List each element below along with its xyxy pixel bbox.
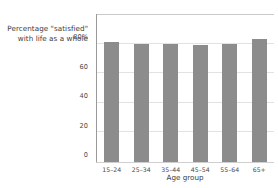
y-axis-tick-label: 20 bbox=[80, 123, 88, 130]
x-axis-tick-label: 55–64 bbox=[220, 167, 239, 173]
x-axis-line bbox=[96, 162, 274, 163]
bar-chart: Percentage "satisfied" with life as a wh… bbox=[0, 0, 278, 188]
x-axis-tick-label: 15–24 bbox=[102, 167, 121, 173]
bar bbox=[252, 39, 267, 162]
x-axis-tick-label: 25–34 bbox=[132, 167, 151, 173]
bar bbox=[193, 45, 208, 162]
bar bbox=[134, 44, 149, 162]
y-axis-tick-label: 80% bbox=[73, 34, 88, 41]
bar bbox=[104, 42, 119, 162]
bar bbox=[222, 44, 237, 162]
y-axis-tick-label: 60 bbox=[80, 63, 88, 70]
y-axis-tick-label: 0 bbox=[84, 152, 88, 159]
plot-area: 020406080% 15–2425–3435–4445–5455–6465+ bbox=[96, 14, 274, 163]
x-axis-tick-label: 65+ bbox=[253, 167, 266, 173]
bars-group bbox=[97, 14, 274, 162]
bar bbox=[163, 44, 178, 162]
x-axis-title: Age group bbox=[96, 174, 274, 181]
y-axis-tick-label: 40 bbox=[80, 93, 88, 100]
